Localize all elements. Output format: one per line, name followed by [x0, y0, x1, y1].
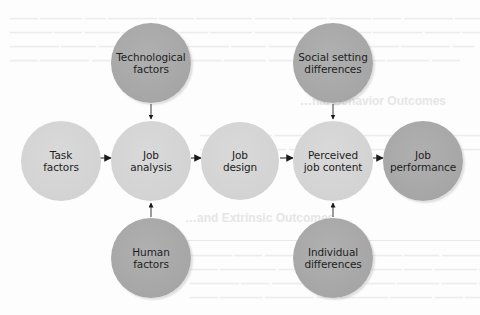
node-label: Task factors	[43, 149, 79, 173]
node-label: Job performance	[390, 149, 456, 173]
node-social-setting-differences: Social setting differences	[293, 23, 373, 103]
node-label: Individual differences	[304, 246, 361, 270]
node-task-factors: Task factors	[21, 121, 101, 201]
node-technological-factors: Technological factors	[111, 23, 191, 103]
node-job-design: Job design	[201, 122, 279, 200]
node-label: Social setting differences	[298, 51, 367, 75]
node-label: Human factors	[132, 246, 169, 270]
node-human-factors: Human factors	[111, 218, 191, 298]
node-job-analysis: Job analysis	[111, 121, 191, 201]
node-label: Job design	[223, 149, 257, 173]
node-label: Job analysis	[130, 149, 172, 173]
node-job-performance: Job performance	[383, 121, 463, 201]
node-label: Perceived job content	[304, 149, 362, 173]
node-individual-differences: Individual differences	[293, 218, 373, 298]
node-perceived-job-content: Perceived job content	[293, 121, 373, 201]
node-label: Technological factors	[116, 51, 185, 75]
